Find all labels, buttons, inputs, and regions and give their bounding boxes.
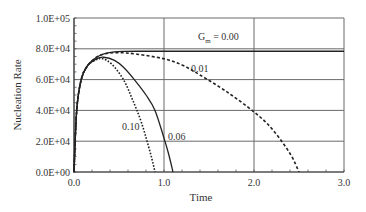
annotation-gm-0.00: Gm = 0.00 xyxy=(198,31,239,45)
annotation-0.01: 0.01 xyxy=(191,63,209,74)
annotation-0.10: 0.10 xyxy=(122,121,140,132)
y-tick-label: 1.0E+05 xyxy=(36,13,70,24)
y-tick-label: 8.0E+04 xyxy=(36,43,70,54)
y-tick-label: 6.0E+04 xyxy=(36,74,70,85)
series-line-0.01 xyxy=(74,53,299,172)
x-tick-labels: 0.01.02.03.0 xyxy=(68,177,351,188)
y-axis-title: Nucleation Rate xyxy=(11,59,23,130)
x-tick-label: 3.0 xyxy=(338,177,351,188)
y-tick-label: 0.0E+00 xyxy=(36,167,70,178)
annotation-0.06: 0.06 xyxy=(168,131,186,142)
x-tick-label: 2.0 xyxy=(248,177,261,188)
x-tick-label: 0.0 xyxy=(68,177,81,188)
y-tick-labels: 0.0E+002.0E+044.0E+046.0E+048.0E+041.0E+… xyxy=(36,13,70,178)
x-tick-label: 1.0 xyxy=(158,177,171,188)
series-line-0.10 xyxy=(74,58,155,172)
series-line-0.00 xyxy=(74,51,344,172)
series-line-0.06 xyxy=(74,57,173,172)
y-tick-label: 2.0E+04 xyxy=(36,136,70,147)
annotation-g: G xyxy=(198,31,205,42)
x-axis-title: Time xyxy=(190,191,213,203)
y-tick-label: 4.0E+04 xyxy=(36,105,70,116)
data-series xyxy=(74,51,344,172)
annotation-value: = 0.00 xyxy=(211,31,239,42)
nucleation-rate-chart: 0.0E+002.0E+044.0E+046.0E+048.0E+041.0E+… xyxy=(0,0,366,212)
